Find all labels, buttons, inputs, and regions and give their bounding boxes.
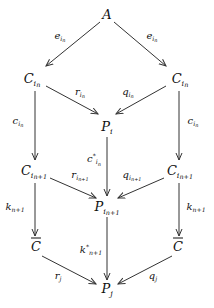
node-P_j: Pj [101, 282, 112, 298]
edge-label-C_in1_left-to-Cbar_left-subscript: n+1 [11, 206, 24, 213]
node-Cbar_left: C [31, 240, 41, 253]
edge-label-C_in1_right-to-Cbar_right-subscript: n+1 [192, 206, 205, 213]
edge-label-C_in_right-to-P_i: qin [122, 87, 134, 99]
node-P_i-subscript: i [110, 127, 113, 136]
node-C_in1_left-sub-subscript: n+1 [33, 173, 47, 181]
node-C_in_left-subscript: in [34, 78, 41, 87]
edge-label-P_i-to-P_in1: c*in [87, 153, 101, 166]
edge-label-A-to-C_in_left-sub-subscript: n [62, 37, 65, 43]
edge-label-C_in1_left-to-P_in1: rin+1 [71, 170, 88, 182]
edge-label-C_in_left-to-C_in1_left-sub-subscript: n [20, 122, 23, 128]
arrows-layer [0, 0, 214, 308]
node-C_in1_left-subscript: in+1 [31, 170, 47, 179]
node-P_in1-subscript: in+1 [103, 206, 119, 215]
edge-label-Cbar_right-to-P_j: qj [149, 271, 157, 282]
node-Cbar_right-symbol: C [173, 239, 183, 254]
edge-label-C_in_right-to-P_i-sub-subscript: n [131, 93, 134, 99]
edge-label-C_in_left-to-C_in1_left-symbol: c [13, 115, 19, 126]
node-C_in_left-sub-subscript: n [36, 81, 40, 89]
edge-label-C_in1_right-to-P_in1-subscript: in+1 [129, 174, 141, 181]
node-Cbar_left-symbol: C [31, 239, 41, 254]
edge-label-C_in1_right-to-P_in1: qin+1 [123, 170, 142, 182]
node-C_in1_left: Cin+1 [21, 164, 47, 181]
edge-label-C_in_right-to-C_in1_right-subscript: in [193, 120, 198, 127]
edge-label-C_in_left-to-P_i: rin [75, 87, 85, 99]
edge-label-C_in_left-to-C_in1_left: cin [13, 116, 24, 128]
node-P_j-symbol: P [101, 281, 110, 296]
edge-label-P_in1-to-P_j: k*n+1 [80, 244, 102, 256]
node-C_in_right-symbol: C [172, 71, 182, 86]
edge-label-A-to-C_in_left-subscript: in [60, 35, 65, 42]
node-C_in_right-sub-subscript: n [184, 81, 188, 89]
edge-label-C_in1_left-to-P_in1-sub-subscript: n+1 [78, 176, 89, 182]
node-C_in1_right-symbol: C [167, 163, 177, 178]
node-Cbar_right: C [173, 240, 183, 253]
edge-label-Cbar_right-to-P_j-subscript: j [155, 275, 157, 282]
edge-label-A-to-C_in_right: ein [146, 31, 157, 43]
arrow-C_in_left-to-P_i [46, 86, 98, 114]
edge-label-C_in1_left-to-P_in1-subscript: in+1 [76, 174, 88, 181]
node-C_in_right: Cin [172, 72, 189, 89]
node-A-symbol: A [102, 7, 111, 22]
node-P_in1-sub-subscript: n+1 [106, 209, 120, 217]
edge-label-Cbar_left-to-P_j-subscript: j [59, 275, 61, 282]
edge-label-Cbar_left-to-P_j: rj [55, 271, 62, 282]
edge-label-C_in1_left-to-Cbar_left: kn+1 [5, 202, 24, 213]
edge-label-P_i-to-P_in1-subscript: in [96, 158, 101, 165]
node-C_in1_right-sub-subscript: n+1 [179, 173, 193, 181]
edge-label-C_in_left-to-P_i-sub-subscript: n [82, 93, 85, 99]
edge-label-P_in1-to-P_j-subscript: n+1 [89, 249, 102, 256]
node-C_in_left-symbol: C [24, 71, 34, 86]
arrow-A-to-C_in_left [46, 22, 100, 66]
node-C_in_right-subscript: in [182, 78, 189, 87]
node-P_j-subscript: j [110, 289, 113, 298]
edge-label-A-to-C_in_left: ein [54, 31, 65, 43]
edge-label-C_in_right-to-C_in1_right-sub-subscript: n [195, 122, 198, 128]
node-P_i: Pi [101, 120, 112, 136]
node-C_in1_left-symbol: C [21, 163, 31, 178]
node-C_in1_right: Cin+1 [167, 164, 193, 181]
edge-label-C_in1_right-to-P_in1-sub-subscript: n+1 [131, 176, 142, 182]
edge-label-C_in_right-to-C_in1_right-symbol: c [188, 115, 194, 126]
arrow-Cbar_left-to-P_j [42, 256, 96, 284]
edge-label-C_in_right-to-C_in1_right: cin [188, 116, 199, 128]
node-A: A [102, 8, 111, 21]
arrow-Cbar_right-to-P_j [118, 256, 172, 284]
edge-label-C_in_left-to-P_i-subscript: in [80, 91, 85, 98]
edge-label-C_in_left-to-C_in1_left-subscript: in [18, 120, 23, 127]
edge-label-C_in_right-to-P_i-subscript: in [129, 91, 134, 98]
arrow-A-to-C_in_right [114, 22, 166, 66]
edge-label-P_i-to-P_in1-sub-subscript: n [98, 161, 101, 167]
node-C_in_left: Cin [24, 72, 41, 89]
edge-label-C_in1_right-to-Cbar_right: kn+1 [186, 202, 205, 213]
node-C_in1_right-subscript: in+1 [177, 170, 193, 179]
edge-label-A-to-C_in_right-sub-subscript: n [154, 37, 157, 43]
node-P_in1-symbol: P [95, 199, 104, 214]
edge-label-A-to-C_in_right-subscript: in [152, 35, 157, 42]
node-P_in1: Pin+1 [95, 200, 120, 217]
node-P_i-symbol: P [101, 119, 110, 134]
